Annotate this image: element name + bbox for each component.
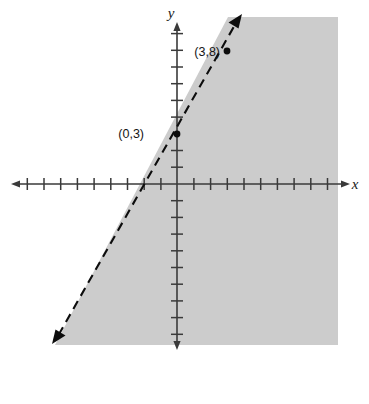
point-label-3-8: (3,8) bbox=[194, 45, 220, 59]
x-axis-right-arrow bbox=[341, 180, 350, 187]
point-label-y-intercept: (0,3) bbox=[118, 127, 144, 141]
x-axis-left-arrow bbox=[11, 180, 20, 187]
y-axis-down-arrow bbox=[173, 341, 180, 350]
x-axis-label: x bbox=[351, 176, 359, 192]
point-marker-y-intercept bbox=[174, 131, 181, 138]
y-axis-label: y bbox=[166, 5, 175, 21]
y-axis-up-arrow bbox=[173, 22, 180, 31]
coordinate-plane-svg: (0,3) (3,8) y x bbox=[0, 0, 369, 404]
graph-canvas: (0,3) (3,8) y x bbox=[0, 0, 369, 404]
point-marker-3-8 bbox=[224, 48, 231, 55]
shaded-region bbox=[55, 17, 338, 345]
